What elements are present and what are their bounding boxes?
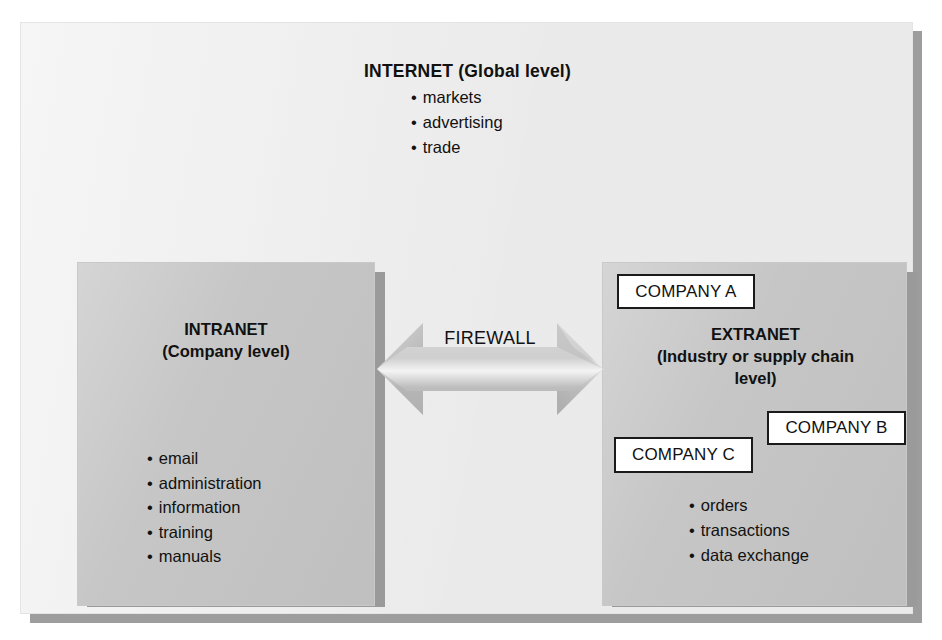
company-c-box: COMPANY C [614,437,753,473]
bullet-icon: • [689,496,695,514]
firewall-connector: FIREWALL [377,320,603,418]
list-item: •manuals [147,544,262,569]
list-item: •administration [147,471,262,496]
bullet-icon: • [147,449,153,467]
list-item: •orders [689,493,809,518]
list-item: •advertising [411,110,503,135]
list-item: •data exchange [689,543,809,568]
list-item: •information [147,495,262,520]
bullet-icon: • [147,547,153,565]
extranet-box: COMPANY A EXTRANET (Industry or supply c… [602,262,907,606]
intranet-title-line1: INTRANET [78,318,374,340]
list-item: •markets [411,85,503,110]
extranet-title-line2: (Industry or supply chain [609,345,902,367]
company-a-box: COMPANY A [617,274,755,309]
extranet-title-line1: EXTRANET [609,323,902,345]
extranet-bullet-label: orders [701,496,748,514]
bullet-icon: • [689,546,695,564]
internet-title: INTERNET (Global level) [21,61,914,82]
intranet-box: INTRANET (Company level) •email •adminis… [77,262,375,606]
extranet-bullet-label: data exchange [701,546,809,564]
intranet-bullet-label: information [159,498,241,516]
intranet-title: INTRANET (Company level) [78,318,374,362]
extranet-title: EXTRANET (Industry or supply chain level… [609,323,902,389]
bullet-icon: • [411,113,417,131]
bullet-icon: • [411,138,417,156]
internet-bullet-label: markets [423,88,482,106]
company-b-box: COMPANY B [767,411,906,445]
internet-bullet-label: advertising [423,113,503,131]
intranet-bullet-label: administration [159,474,262,492]
firewall-label: FIREWALL [377,328,603,349]
list-item: •trade [411,135,503,160]
bullet-icon: • [147,523,153,541]
internet-bullet-list: •markets •advertising •trade [411,85,503,160]
intranet-bullet-label: training [159,523,213,541]
list-item: •training [147,520,262,545]
bullet-icon: • [147,498,153,516]
list-item: •email [147,446,262,471]
extranet-bullet-label: transactions [701,521,790,539]
bullet-icon: • [689,521,695,539]
bullet-icon: • [147,474,153,492]
intranet-bullet-list: •email •administration •information •tra… [147,446,262,569]
intranet-title-line2: (Company level) [78,340,374,362]
extranet-bullet-list: •orders •transactions •data exchange [689,493,809,568]
extranet-title-line3: level) [609,367,902,389]
diagram-panel: INTERNET (Global level) •markets •advert… [20,22,913,614]
diagram-canvas: INTERNET (Global level) •markets •advert… [0,0,942,640]
intranet-bullet-label: email [159,449,198,467]
bullet-icon: • [411,88,417,106]
intranet-bullet-label: manuals [159,547,221,565]
list-item: •transactions [689,518,809,543]
internet-bullet-label: trade [423,138,461,156]
